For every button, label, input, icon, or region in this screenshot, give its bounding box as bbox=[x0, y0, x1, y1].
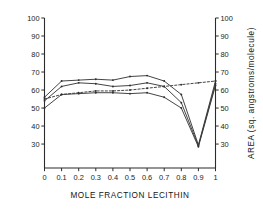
x-tick-label: 0.2 bbox=[74, 173, 84, 182]
x-axis-ticks: 00.10.20.30.40.50.60.70.80.91 bbox=[42, 168, 217, 182]
data-point-marker bbox=[78, 92, 80, 94]
y-tick-label-left: 40 bbox=[31, 122, 39, 131]
x-tick-label: 0.9 bbox=[193, 173, 203, 182]
y-tick-label-right: 30 bbox=[221, 140, 229, 149]
data-point-marker bbox=[95, 90, 97, 92]
y-tick-label-right: 60 bbox=[221, 86, 229, 95]
data-point-marker bbox=[163, 85, 165, 87]
data-point-marker bbox=[95, 83, 97, 85]
x-tick-label: 1 bbox=[213, 173, 217, 182]
right-axis-ticks: 30405060708090100 bbox=[216, 14, 233, 149]
data-point-marker bbox=[197, 146, 199, 148]
data-point-marker bbox=[44, 96, 46, 98]
data-point-marker bbox=[129, 76, 131, 78]
y-tick-label-left: 50 bbox=[31, 104, 39, 113]
data-point-marker bbox=[180, 94, 182, 96]
data-point-marker bbox=[146, 92, 148, 94]
data-point-marker bbox=[95, 92, 97, 94]
x-tick-label: 0.4 bbox=[108, 173, 118, 182]
data-point-marker bbox=[112, 90, 114, 92]
data-point-marker bbox=[163, 96, 165, 98]
data-point-marker bbox=[197, 82, 199, 84]
data-point-marker bbox=[112, 92, 114, 94]
x-tick-label: 0.7 bbox=[159, 173, 169, 182]
x-tick-label: 0.6 bbox=[142, 173, 152, 182]
data-point-marker bbox=[129, 93, 131, 95]
x-tick-label: 0.5 bbox=[125, 173, 135, 182]
y-tick-label-right: 40 bbox=[221, 122, 229, 131]
x-axis-title: MOLE FRACTION LECITHIN bbox=[70, 191, 189, 200]
y-tick-label-right: 90 bbox=[221, 32, 229, 41]
y-tick-label-left: 100 bbox=[27, 14, 39, 23]
data-point-marker bbox=[78, 79, 80, 81]
y-tick-label-left: 60 bbox=[31, 86, 39, 95]
data-point-marker bbox=[215, 85, 217, 87]
data-point-marker bbox=[146, 75, 148, 77]
data-point-marker bbox=[112, 79, 114, 81]
data-point-marker bbox=[44, 98, 46, 100]
y-tick-label-right: 100 bbox=[221, 14, 233, 23]
data-point-marker bbox=[61, 94, 63, 96]
data-point-marker bbox=[61, 80, 63, 82]
data-point-marker bbox=[146, 87, 148, 89]
data-point-marker bbox=[61, 85, 63, 87]
y-axis-right-title: AREA (sq. angstroms/molecule) bbox=[247, 27, 256, 159]
data-point-marker bbox=[215, 80, 217, 82]
x-tick-label: 0.8 bbox=[176, 173, 186, 182]
chart-container: 30405060708090100 30405060708090100 00.1… bbox=[0, 0, 263, 212]
data-series-group bbox=[44, 75, 217, 148]
data-point-marker bbox=[95, 78, 97, 80]
data-point-marker bbox=[78, 82, 80, 84]
x-tick-label: 0 bbox=[42, 173, 46, 182]
data-point-marker bbox=[146, 82, 148, 84]
y-tick-label-right: 70 bbox=[221, 68, 229, 77]
area-vs-mole-fraction-line-chart: 30405060708090100 30405060708090100 00.1… bbox=[0, 0, 263, 212]
data-point-marker bbox=[112, 85, 114, 87]
y-tick-label-left: 70 bbox=[31, 68, 39, 77]
data-point-marker bbox=[180, 84, 182, 86]
data-point-marker bbox=[180, 107, 182, 109]
data-point-marker bbox=[129, 85, 131, 87]
data-point-marker bbox=[215, 83, 217, 85]
series-path-lower-curve bbox=[45, 86, 216, 147]
data-point-marker bbox=[129, 89, 131, 91]
data-point-marker bbox=[44, 100, 46, 102]
y-tick-label-right: 80 bbox=[221, 50, 229, 59]
y-tick-label-left: 90 bbox=[31, 32, 39, 41]
left-axis-ticks: 30405060708090100 bbox=[27, 14, 44, 149]
y-tick-label-left: 80 bbox=[31, 50, 39, 59]
y-tick-label-left: 30 bbox=[31, 140, 39, 149]
y-tick-label-right: 50 bbox=[221, 104, 229, 113]
data-point-marker bbox=[44, 107, 46, 109]
x-tick-label: 0.3 bbox=[91, 173, 101, 182]
data-point-marker bbox=[163, 80, 165, 82]
x-tick-label: 0.1 bbox=[56, 173, 66, 182]
data-point-marker bbox=[180, 102, 182, 104]
series-path-middle-curve bbox=[45, 83, 216, 146]
